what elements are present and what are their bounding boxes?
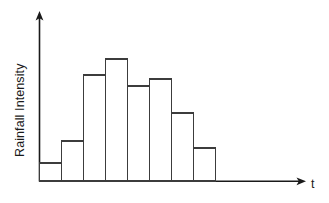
bar-8 (194, 148, 216, 181)
bar-7 (172, 113, 194, 181)
bar-4 (106, 59, 128, 181)
bar-2 (62, 141, 84, 181)
hyetograph-chart: Rainfall Intensity t (0, 0, 329, 203)
bar-6 (150, 79, 172, 181)
bar-5 (128, 86, 150, 181)
x-axis-label: t (311, 177, 315, 191)
y-axis-label: Rainfall Intensity (13, 63, 27, 157)
figure-root: Rainfall Intensity t (0, 0, 329, 203)
bar-1 (40, 163, 62, 181)
bar-3 (84, 75, 106, 181)
